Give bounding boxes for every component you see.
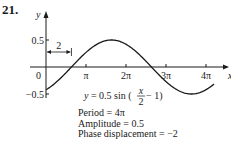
equation-suffix: − 1) bbox=[146, 90, 162, 102]
annotation-label: 2 bbox=[56, 40, 61, 51]
x-tick-label: 4π bbox=[201, 70, 211, 81]
phase-note: Phase displacement = −2 bbox=[78, 129, 178, 140]
notes-block: Period = 4π Amplitude = 0.5 Phase displa… bbox=[78, 108, 178, 140]
y-tick-label: −0.5 bbox=[26, 89, 44, 100]
x-tick-label: 3π bbox=[161, 70, 171, 81]
equation-label: y = 0.5 sin (x2 − 1) bbox=[83, 85, 162, 107]
y-axis-label: y bbox=[35, 9, 41, 20]
x-axis-label: x bbox=[227, 70, 231, 81]
x-tick-label: π bbox=[83, 70, 88, 81]
y-axis-arrow bbox=[44, 11, 49, 18]
equation-numerator: x bbox=[138, 85, 144, 96]
x-axis-arrow bbox=[223, 65, 229, 70]
x-tick-label: 2π bbox=[121, 70, 131, 81]
y-tick-label: 0.5 bbox=[32, 35, 45, 46]
annotation-arrow-right bbox=[66, 50, 70, 54]
annotation-arrow-left bbox=[47, 50, 51, 54]
period-note: Period = 4π bbox=[78, 108, 178, 119]
axes: xy bbox=[30, 9, 231, 98]
equation-prefix: y = 0.5 sin ( bbox=[83, 90, 132, 102]
origin-label: 0 bbox=[36, 70, 41, 81]
phase-annotation: 2 bbox=[47, 40, 71, 56]
equation-denominator: 2 bbox=[139, 96, 144, 107]
